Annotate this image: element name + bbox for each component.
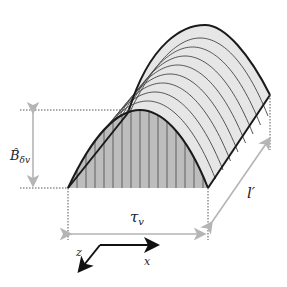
- x-axis-label: x: [144, 255, 151, 268]
- pole-pitch-label: τv: [130, 208, 144, 227]
- z-axis-label: z: [75, 246, 82, 259]
- length-label: l′: [247, 184, 256, 202]
- z-axis-arrow-icon: [80, 245, 100, 270]
- amplitude-label: B̂δv: [9, 148, 30, 165]
- diagram-canvas: B̂δv τv l′ x z: [0, 0, 287, 287]
